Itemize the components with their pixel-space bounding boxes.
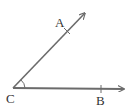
ray-cb <box>13 88 124 89</box>
label-b: B <box>96 93 105 108</box>
angle-diagram: A B C <box>0 0 134 112</box>
ray-ca <box>13 13 85 88</box>
label-c: C <box>6 91 15 106</box>
label-a: A <box>55 15 65 30</box>
angle-arc-c <box>21 80 25 88</box>
